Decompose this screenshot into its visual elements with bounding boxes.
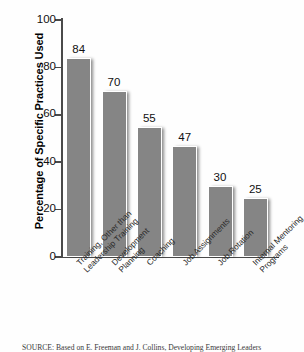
bar-group: 25 bbox=[243, 20, 268, 257]
bar-group: 47 bbox=[172, 20, 197, 257]
bar-value-label: 55 bbox=[137, 112, 162, 124]
bar-value-label: 25 bbox=[243, 183, 268, 195]
bar-value-label: 47 bbox=[172, 131, 197, 143]
plot-area: 847055473025 bbox=[62, 20, 274, 257]
bar-value-label: 84 bbox=[66, 43, 91, 55]
source-note: SOURCE: Based on E. Freeman and J. Colli… bbox=[22, 343, 272, 352]
bar-value-label: 30 bbox=[208, 171, 233, 183]
bar-group: 84 bbox=[66, 20, 91, 257]
y-tick-label-0: 0 bbox=[16, 250, 56, 262]
y-tick-label-20: 20 bbox=[16, 202, 56, 214]
y-tick-label-60: 60 bbox=[16, 107, 56, 119]
bar-value-label: 70 bbox=[102, 76, 127, 88]
bar bbox=[66, 58, 91, 257]
y-axis-title: Percentage of Specific Practices Used bbox=[33, 6, 45, 256]
bar-group: 55 bbox=[137, 20, 162, 257]
bar bbox=[172, 146, 197, 257]
y-tick-label-40: 40 bbox=[16, 155, 56, 167]
y-tick-label-100: 100 bbox=[16, 13, 56, 25]
y-tick-label-80: 80 bbox=[16, 60, 56, 72]
